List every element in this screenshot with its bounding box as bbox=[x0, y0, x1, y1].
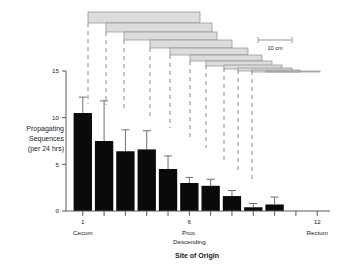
bar bbox=[265, 204, 283, 211]
colon-segment bbox=[124, 32, 217, 40]
y-tick-label: 10 bbox=[52, 114, 59, 121]
colon-segment bbox=[106, 23, 212, 32]
x-site-annotation: Descending bbox=[173, 238, 206, 245]
x-tick-label: 12 bbox=[314, 218, 321, 225]
bar bbox=[74, 113, 92, 211]
bar bbox=[180, 183, 198, 211]
scale-bar: 10 cm bbox=[258, 37, 292, 51]
x-axis-title: Site of Origin bbox=[175, 252, 219, 260]
y-tick-label: 5 bbox=[56, 161, 60, 168]
x-axis-site-annotations: CecumProx.DescendingRectum bbox=[73, 229, 328, 245]
chart-svg: 10 cm 051015 1612 CecumProx.DescendingRe… bbox=[0, 0, 338, 264]
bar bbox=[116, 151, 134, 211]
colon-segment bbox=[190, 55, 262, 61]
bar bbox=[201, 186, 219, 211]
bar bbox=[95, 141, 113, 211]
x-site-annotation: Cecum bbox=[73, 229, 93, 236]
y-axis-title: Propagating Sequences (per 24 hrs) bbox=[26, 125, 64, 153]
bar bbox=[159, 169, 177, 211]
scale-bar-label: 10 cm bbox=[267, 45, 283, 51]
x-tick-label: 1 bbox=[81, 218, 85, 225]
y-axis-title-line-2: Sequences bbox=[29, 135, 65, 143]
x-tick-label: 6 bbox=[188, 218, 192, 225]
x-site-annotation: Rectum bbox=[307, 229, 328, 236]
colon-segment bbox=[150, 40, 232, 48]
colon-segment bbox=[170, 48, 248, 55]
colon-segment-diagram bbox=[88, 12, 320, 72]
bar bbox=[244, 207, 262, 211]
bar bbox=[138, 149, 156, 211]
colon-segment bbox=[88, 12, 200, 23]
bar bbox=[223, 196, 241, 211]
colon-segment bbox=[266, 71, 320, 72]
x-axis-ticks bbox=[83, 211, 317, 216]
y-axis-title-line-1: Propagating bbox=[26, 125, 64, 133]
y-tick-label: 0 bbox=[56, 207, 60, 214]
x-site-annotation: Prox. bbox=[182, 229, 197, 236]
figure-container: 10 cm 051015 1612 CecumProx.DescendingRe… bbox=[0, 0, 338, 264]
y-tick-label: 15 bbox=[52, 67, 59, 74]
y-axis-title-line-3: (per 24 hrs) bbox=[28, 145, 64, 153]
x-axis-tick-labels: 1612 bbox=[81, 218, 321, 225]
